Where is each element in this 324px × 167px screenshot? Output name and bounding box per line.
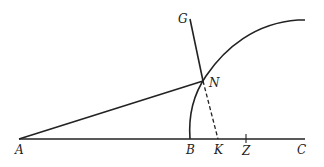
label-K: K <box>213 143 224 157</box>
label-C: C <box>297 143 306 157</box>
line-AN <box>19 81 203 139</box>
label-A: A <box>14 143 24 157</box>
label-B: B <box>185 143 195 157</box>
geometry-diagram: A B K Z C N G <box>0 0 324 167</box>
label-N: N <box>208 76 220 90</box>
label-G: G <box>178 12 188 26</box>
label-Z: Z <box>241 144 251 158</box>
line-GN <box>190 19 203 81</box>
arc-BN <box>190 20 305 139</box>
